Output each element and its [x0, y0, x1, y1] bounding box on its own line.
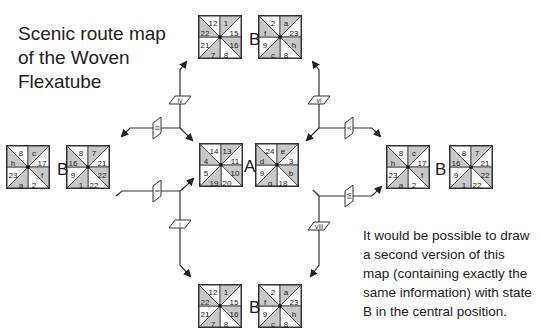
- state-tile-right-near: 8c17f2a23h: [386, 145, 430, 189]
- svg-text:a: a: [284, 19, 289, 28]
- svg-text:1: 1: [224, 19, 229, 28]
- svg-text:21: 21: [201, 41, 210, 50]
- svg-text:h: h: [292, 310, 296, 319]
- svg-text:h: h: [292, 41, 296, 50]
- svg-text:ii: ii: [154, 189, 161, 193]
- svg-text:vii: vii: [346, 193, 353, 200]
- svg-text:9: 9: [260, 169, 265, 178]
- svg-text:16: 16: [452, 159, 461, 168]
- explanatory-note: It would be possible to draw a second ve…: [363, 226, 541, 321]
- state-label: B: [249, 30, 260, 50]
- svg-text:1: 1: [224, 288, 229, 297]
- svg-text:19: 19: [210, 179, 219, 187]
- state-tile-left-B: 872122221916: [66, 145, 110, 189]
- svg-text:iii: iii: [154, 126, 161, 131]
- svg-text:8: 8: [462, 149, 467, 158]
- svg-text:4: 4: [204, 157, 209, 166]
- svg-text:21: 21: [201, 310, 210, 319]
- svg-text:10: 10: [231, 169, 240, 178]
- svg-text:18: 18: [279, 179, 288, 187]
- svg-text:23: 23: [290, 29, 299, 38]
- svg-text:1: 1: [79, 181, 84, 189]
- svg-text:g: g: [268, 179, 272, 187]
- state-label: B: [435, 160, 446, 180]
- svg-text:2: 2: [271, 19, 276, 28]
- state-tile-center-right: 24e3b18g9d: [255, 143, 299, 187]
- svg-text:16: 16: [230, 310, 239, 319]
- state-tile-top-right: 2a23h8c9f: [258, 15, 302, 59]
- connector-viii: viii: [308, 222, 330, 230]
- connector-ii: ii: [153, 180, 161, 202]
- state-label: B: [249, 298, 260, 318]
- svg-text:5: 5: [204, 169, 209, 178]
- note-line: It would be possible to draw: [363, 226, 541, 245]
- svg-text:8: 8: [284, 51, 289, 59]
- svg-text:17: 17: [418, 159, 427, 168]
- svg-text:21: 21: [98, 159, 107, 168]
- svg-text:1: 1: [462, 181, 467, 189]
- svg-text:24: 24: [266, 147, 275, 156]
- svg-text:12: 12: [209, 288, 218, 297]
- note-line: same information) with state: [363, 283, 541, 302]
- state-label: A: [244, 157, 255, 177]
- connector-iv: iv: [169, 96, 191, 104]
- svg-text:2: 2: [271, 288, 276, 297]
- svg-text:23: 23: [389, 171, 398, 180]
- svg-text:22: 22: [473, 181, 482, 189]
- svg-text:2: 2: [412, 181, 417, 189]
- svg-text:9: 9: [263, 41, 268, 50]
- svg-text:d: d: [260, 157, 264, 166]
- svg-text:a: a: [284, 288, 289, 297]
- svg-text:iv: iv: [177, 97, 183, 104]
- svg-text:c: c: [412, 149, 416, 158]
- svg-text:11: 11: [231, 157, 240, 166]
- svg-text:8: 8: [224, 51, 229, 59]
- svg-text:c: c: [32, 149, 36, 158]
- svg-text:a: a: [399, 181, 404, 189]
- connector-vii: vii: [345, 185, 353, 207]
- state-tile-center-A: 14131110201954: [199, 143, 243, 187]
- svg-text:22: 22: [201, 29, 210, 38]
- svg-text:h: h: [391, 159, 395, 168]
- svg-text:3: 3: [289, 157, 294, 166]
- svg-text:23: 23: [290, 298, 299, 307]
- state-tile-right-B: 872122221916: [449, 145, 493, 189]
- state-tile-left-far: 8c17f2a23h: [6, 145, 50, 189]
- svg-text:13: 13: [223, 147, 232, 156]
- svg-text:20: 20: [223, 179, 232, 187]
- svg-text:7: 7: [92, 149, 97, 158]
- svg-text:17: 17: [38, 159, 47, 168]
- svg-text:b: b: [289, 169, 294, 178]
- svg-text:h: h: [11, 159, 15, 168]
- svg-text:9: 9: [454, 171, 459, 180]
- svg-text:vi: vi: [316, 97, 322, 104]
- note-line: map (containing exactly the: [363, 264, 541, 283]
- svg-text:14: 14: [210, 147, 219, 156]
- svg-text:c: c: [271, 320, 275, 328]
- connector-i: i: [169, 220, 191, 228]
- svg-text:15: 15: [230, 29, 239, 38]
- connector-iii: iii: [153, 117, 161, 139]
- svg-text:8: 8: [19, 149, 24, 158]
- svg-text:22: 22: [481, 171, 490, 180]
- svg-text:a: a: [19, 181, 24, 189]
- svg-text:16: 16: [69, 159, 78, 168]
- svg-text:12: 12: [209, 19, 218, 28]
- svg-text:22: 22: [90, 181, 99, 189]
- svg-text:8: 8: [399, 149, 404, 158]
- state-label: B: [57, 160, 68, 180]
- note-line: a second version of this: [363, 245, 541, 264]
- svg-text:c: c: [271, 51, 275, 59]
- note-line: B in the central position.: [363, 302, 541, 321]
- state-tile-top-B: 1211516872122: [198, 15, 242, 59]
- svg-text:e: e: [281, 147, 286, 156]
- svg-text:21: 21: [481, 159, 490, 168]
- svg-text:2: 2: [32, 181, 37, 189]
- svg-text:8: 8: [79, 149, 84, 158]
- svg-text:15: 15: [230, 298, 239, 307]
- svg-text:v: v: [346, 126, 353, 130]
- svg-text:22: 22: [201, 298, 210, 307]
- svg-text:viii: viii: [315, 223, 324, 230]
- svg-text:16: 16: [230, 41, 239, 50]
- svg-text:7: 7: [211, 320, 216, 328]
